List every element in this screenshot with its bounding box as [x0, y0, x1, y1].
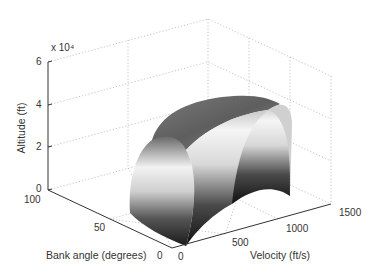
- x-axis-label: Velocity (ft/s): [250, 249, 310, 261]
- svg-text:0: 0: [36, 183, 42, 194]
- z-tick-labels: 6 4 2 0 x 10⁴: [36, 42, 74, 194]
- svg-text:6: 6: [36, 56, 42, 67]
- svg-text:1500: 1500: [339, 207, 362, 218]
- surface-plot: 6 4 2 0 x 10⁴ 100 50 0 0 500 1000 1500 A…: [0, 0, 376, 278]
- svg-text:0: 0: [157, 250, 163, 261]
- svg-text:100: 100: [24, 194, 41, 205]
- svg-text:4: 4: [36, 99, 42, 110]
- z-axis-label: Altitude (ft): [15, 103, 27, 154]
- svg-text:0: 0: [178, 251, 184, 262]
- svg-text:x 10⁴: x 10⁴: [51, 42, 74, 53]
- svg-text:50: 50: [94, 222, 106, 233]
- svg-text:2: 2: [36, 141, 42, 152]
- y-axis-label: Bank angle (degrees): [46, 249, 146, 261]
- svg-text:1000: 1000: [286, 223, 309, 234]
- svg-text:500: 500: [232, 237, 249, 248]
